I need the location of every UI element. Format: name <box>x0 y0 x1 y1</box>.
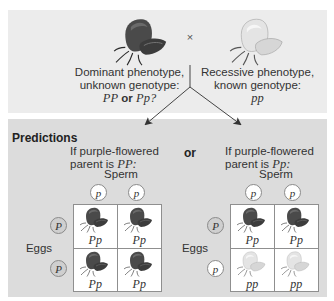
white-flower-icon <box>280 249 312 277</box>
white-flower-icon <box>236 249 268 277</box>
punnett-square-pp: Pp Pp Pp Pp <box>73 204 162 292</box>
offspring-genotype: Pp <box>290 234 303 246</box>
egg-allele-circle: P <box>50 260 67 277</box>
purple-flower-icon <box>236 205 268 233</box>
purple-flower-icon <box>280 205 312 233</box>
offspring-genotype: Pp <box>89 278 102 290</box>
offspring-cell: Pp <box>118 205 162 249</box>
offspring-cell: Pp <box>74 205 118 249</box>
purple-flower-icon <box>79 249 111 277</box>
egg-allele-circle: p <box>207 260 224 277</box>
offspring-genotype: Pp <box>133 234 146 246</box>
testcross-diagram: × Dominant phenotype, unknown genotype: … <box>0 0 334 301</box>
offspring-cell: Pp <box>118 249 162 292</box>
offspring-genotype: pp <box>290 278 302 290</box>
punnett-square-Pp: Pp Pp pp pp <box>230 204 319 292</box>
sperm-allele-circle: p <box>284 184 301 201</box>
eggs-label-left: Eggs <box>24 242 54 255</box>
offspring-genotype: pp <box>246 278 258 290</box>
purple-flower-icon <box>123 249 155 277</box>
sperm-allele-circle: p <box>90 184 107 201</box>
offspring-cell: Pp <box>231 205 275 249</box>
sperm-allele-circle: p <box>245 184 262 201</box>
offspring-cell: pp <box>275 249 319 292</box>
offspring-genotype: Pp <box>133 278 146 290</box>
offspring-genotype: Pp <box>89 234 102 246</box>
offspring-cell: Pp <box>275 205 319 249</box>
or-divider-label: or <box>184 146 196 160</box>
offspring-cell: pp <box>231 249 275 292</box>
predictions-title: Predictions <box>12 131 77 145</box>
purple-flower-icon <box>123 205 155 233</box>
sperm-label-left: Sperm <box>101 168 141 181</box>
egg-allele-circle: P <box>50 217 67 234</box>
offspring-cell: Pp <box>74 249 118 292</box>
purple-flower-icon <box>79 205 111 233</box>
egg-allele-circle: P <box>207 217 224 234</box>
offspring-genotype: Pp <box>246 234 259 246</box>
eggs-label-right: Eggs <box>180 242 210 255</box>
sperm-label-right: Sperm <box>256 168 296 181</box>
sperm-allele-circle: p <box>128 184 145 201</box>
